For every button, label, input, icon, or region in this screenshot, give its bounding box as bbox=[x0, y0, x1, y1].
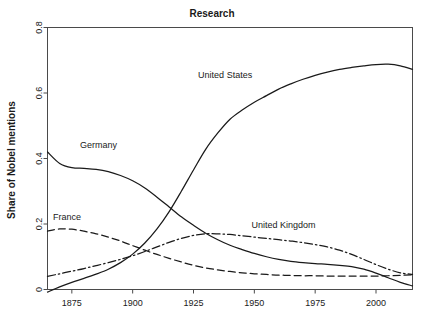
y-tick-label: 0.8 bbox=[34, 21, 44, 34]
series-label-united-states: United States bbox=[198, 70, 253, 80]
x-tick-label: 1975 bbox=[305, 298, 325, 308]
series-label-united-kingdom: United Kingdom bbox=[252, 220, 316, 230]
y-tick-label: 0.6 bbox=[34, 87, 44, 100]
series-label-france: France bbox=[53, 212, 81, 222]
series-label-germany: Germany bbox=[80, 140, 118, 150]
x-tick-label: 2000 bbox=[366, 298, 386, 308]
x-tick-label: 1875 bbox=[62, 298, 82, 308]
x-tick-label: 1950 bbox=[244, 298, 264, 308]
y-tick-label: 0.2 bbox=[34, 218, 44, 231]
research-line-chart: Research Share of Nobel mentions 00.20.4… bbox=[0, 0, 425, 325]
x-tick-label: 1900 bbox=[123, 298, 143, 308]
chart-title: Research bbox=[189, 8, 234, 19]
y-tick-label: 0 bbox=[34, 287, 44, 292]
y-axis-label: Share of Nobel mentions bbox=[6, 101, 17, 219]
chart-container: Research Share of Nobel mentions 00.20.4… bbox=[0, 0, 425, 325]
y-tick-label: 0.4 bbox=[34, 152, 44, 165]
x-tick-label: 1925 bbox=[183, 298, 203, 308]
